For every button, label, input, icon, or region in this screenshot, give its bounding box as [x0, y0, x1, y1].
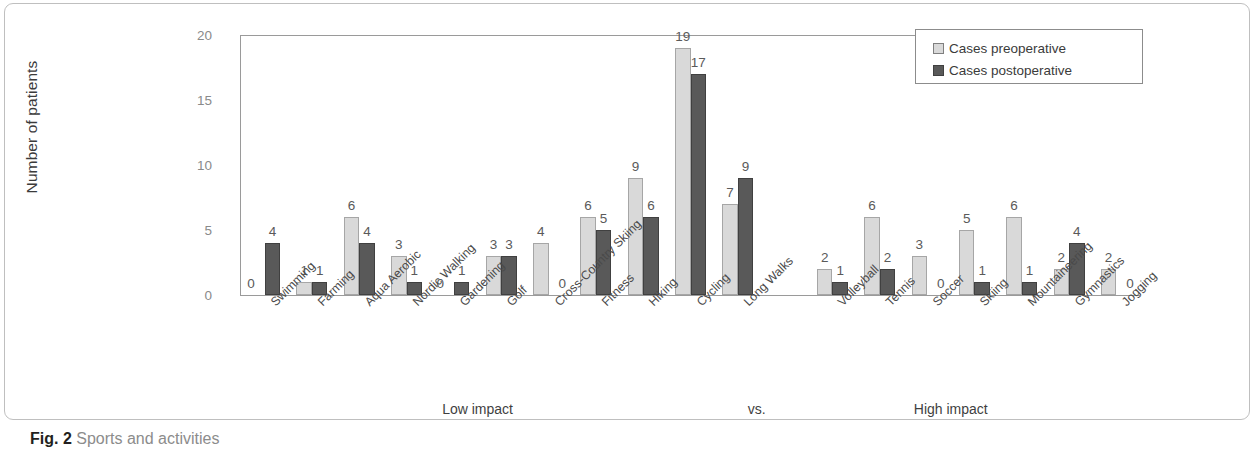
- bar-label-post-mountaineering: 1: [1014, 263, 1044, 278]
- y-axis-tick-5: 5: [172, 223, 212, 238]
- legend-item-postoperative: Cases postoperative: [933, 59, 1142, 81]
- bar-label-post-long-walks: 9: [731, 159, 761, 174]
- bar-label-post-aqua-aerobic: 4: [352, 224, 382, 239]
- bar-label-post-volleyball: 1: [825, 263, 855, 278]
- bar-label-pre-soccer: 3: [904, 237, 934, 252]
- bar-label-post-tennis: 2: [873, 250, 903, 265]
- bar-label-post-skiing: 1: [967, 263, 997, 278]
- bar-label-pre-cross-country-skiing: 4: [526, 224, 556, 239]
- bar-label-pre-swimming: 0: [236, 276, 266, 291]
- bar-label-post-golf: 3: [494, 237, 524, 252]
- bar-label-post-swimming: 4: [257, 224, 287, 239]
- group-label-vs: vs.: [667, 401, 847, 417]
- group-label-low-impact: Low impact: [388, 401, 568, 417]
- bar-label-post-hiking: 6: [636, 198, 666, 213]
- bar-label-pre-skiing: 5: [952, 211, 982, 226]
- bar-label-post-cycling: 17: [683, 55, 713, 70]
- y-axis-tick-labels: 05101520: [172, 0, 212, 420]
- legend-item-preoperative: Cases preoperative: [933, 37, 1142, 59]
- figure-container: Number of patients 05101520 041164310133…: [0, 0, 1255, 471]
- y-axis-tick-0: 0: [172, 288, 212, 303]
- bar-label-post-fitness: 5: [589, 211, 619, 226]
- y-axis-tick-10: 10: [172, 158, 212, 173]
- bar-post-long-walks: [738, 178, 754, 295]
- legend-label-preoperative: Cases preoperative: [949, 41, 1066, 56]
- y-axis-tick-15: 15: [172, 93, 212, 108]
- y-axis-title: Number of patients: [23, 0, 41, 257]
- bar-post-cycling: [691, 74, 707, 295]
- bar-pre-cross-country-skiing: [533, 243, 549, 295]
- bar-post-hiking: [643, 217, 659, 295]
- figure-caption-text: Sports and activities: [76, 430, 219, 447]
- group-label-high-impact: High impact: [861, 401, 1041, 417]
- legend-label-postoperative: Cases postoperative: [949, 63, 1072, 78]
- figure-caption-prefix: Fig. 2: [30, 430, 72, 447]
- figure-caption: Fig. 2 Sports and activities: [30, 430, 219, 448]
- x-axis-labels: SwimmingFarmingAqua AerobicNordic Walkin…: [241, 299, 1140, 399]
- bar-label-post-gymnastics: 4: [1062, 224, 1092, 239]
- chart-plot-wrapper: Number of patients 05101520 041164310133…: [0, 0, 1255, 420]
- bar-label-pre-tennis: 6: [857, 198, 887, 213]
- bar-label-pre-aqua-aerobic: 6: [337, 198, 367, 213]
- bar-pre-soccer: [912, 256, 928, 295]
- chart-legend: Cases preoperative Cases postoperative: [915, 29, 1143, 84]
- legend-swatch-preoperative-icon: [933, 43, 944, 54]
- bar-label-pre-cycling: 19: [668, 29, 698, 44]
- bar-label-pre-mountaineering: 6: [999, 198, 1029, 213]
- y-axis-tick-20: 20: [172, 28, 212, 43]
- legend-swatch-postoperative-icon: [933, 65, 944, 76]
- bar-label-pre-hiking: 9: [620, 159, 650, 174]
- bar-pre-cycling: [675, 48, 691, 295]
